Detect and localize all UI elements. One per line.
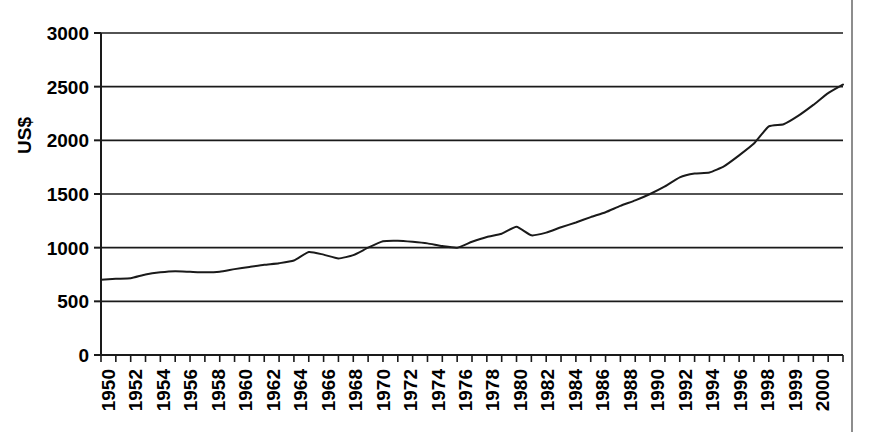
x-tick-label: 1984 xyxy=(565,369,586,412)
y-tick-label: 3000 xyxy=(47,23,89,44)
page-border-rule xyxy=(851,0,853,432)
y-gridlines xyxy=(101,33,843,301)
x-tick-label: 1970 xyxy=(373,369,394,411)
x-tick-label: 1958 xyxy=(208,369,229,411)
y-tick-label: 0 xyxy=(78,345,89,366)
x-tick-label: 1954 xyxy=(153,369,174,412)
x-tick-label: 1952 xyxy=(125,369,146,411)
x-axis-ticks xyxy=(101,355,843,362)
x-tick-label: 1978 xyxy=(482,369,503,411)
line-chart-figure: US$ 050010001500200025003000 19501952195… xyxy=(0,0,851,432)
x-tick-label: 1964 xyxy=(290,369,311,412)
x-tick-label: 1968 xyxy=(345,369,366,411)
chart-page: US$ 050010001500200025003000 19501952195… xyxy=(0,0,874,432)
x-tick-label: 1998 xyxy=(757,369,778,411)
x-tick-label: 2000 xyxy=(812,369,833,411)
chart-canvas: 050010001500200025003000 195019521954195… xyxy=(0,0,851,432)
x-tick-label: 1972 xyxy=(400,369,421,411)
x-tick-label: 1992 xyxy=(675,369,696,411)
x-tick-label: 1986 xyxy=(592,369,613,411)
x-tick-label: 1990 xyxy=(647,369,668,411)
y-tick-label: 500 xyxy=(57,291,89,312)
x-tick-label: 1999 xyxy=(785,369,806,411)
y-tick-label: 2000 xyxy=(47,130,89,151)
x-tick-label: 1976 xyxy=(455,369,476,411)
y-tick-label: 1500 xyxy=(47,184,89,205)
x-tick-label: 1982 xyxy=(537,369,558,411)
x-tick-label: 1950 xyxy=(98,369,119,411)
x-tick-label: 1966 xyxy=(318,369,339,411)
x-tick-label: 1988 xyxy=(620,369,641,411)
y-axis-ticks xyxy=(94,33,101,355)
x-tick-label: 1980 xyxy=(510,369,531,411)
x-tick-label: 1974 xyxy=(428,369,449,412)
y-tick-label: 1000 xyxy=(47,238,89,259)
y-tick-label: 2500 xyxy=(47,77,89,98)
y-axis-tick-labels: 050010001500200025003000 xyxy=(47,23,89,366)
x-tick-label: 1994 xyxy=(702,369,723,412)
x-axis-tick-labels: 1950195219541956195819601962196419661968… xyxy=(98,369,834,412)
data-series-line xyxy=(101,85,843,280)
x-tick-label: 1956 xyxy=(180,369,201,411)
x-tick-label: 1962 xyxy=(263,369,284,411)
x-tick-label: 1960 xyxy=(235,369,256,411)
x-tick-label: 1996 xyxy=(730,369,751,411)
